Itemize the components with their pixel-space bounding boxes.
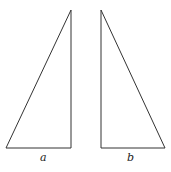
label-a: a	[40, 151, 47, 164]
triangle-a	[6, 10, 71, 148]
triangles-diagram	[0, 0, 171, 172]
label-b: b	[127, 151, 134, 164]
triangle-b	[101, 10, 165, 148]
